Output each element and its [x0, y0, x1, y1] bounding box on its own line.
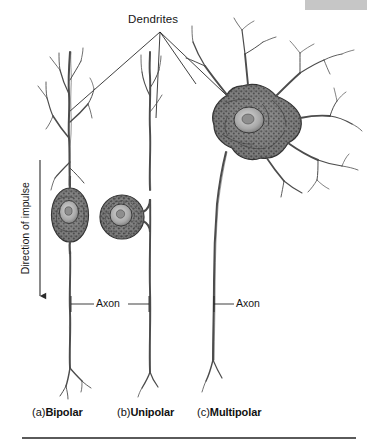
caption-bipolar-prefix: (a)	[32, 406, 45, 418]
dendrites-label: Dendrites	[128, 14, 178, 26]
bipolar-dendrite	[38, 48, 94, 190]
multipolar-soma	[213, 84, 302, 159]
caption-row: (a)Bipolar (b)Unipolar (c)Multipolar	[0, 406, 367, 426]
multipolar-neuron	[186, 18, 362, 392]
caption-unipolar-prefix: (b)	[117, 406, 130, 418]
caption-unipolar: (b)Unipolar	[117, 406, 174, 418]
multipolar-axon	[202, 152, 227, 392]
unipolar-neuron	[100, 52, 162, 397]
bipolar-neuron	[38, 48, 94, 399]
caption-bipolar-name: Bipolar	[45, 406, 82, 418]
caption-unipolar-name: Unipolar	[130, 406, 174, 418]
direction-of-impulse-label: Direction of impulse	[20, 158, 31, 298]
bipolar-soma	[52, 176, 89, 254]
neuron-types-figure: Dendrites Axon Axon Direction of impulse…	[0, 0, 367, 448]
caption-multipolar-prefix: (c)	[197, 406, 210, 418]
unipolar-soma	[100, 195, 150, 239]
unipolar-stalk	[143, 199, 150, 212]
caption-multipolar: (c)Multipolar	[197, 406, 261, 418]
axon-label-left: Axon	[96, 298, 120, 309]
bipolar-axon	[60, 252, 91, 399]
caption-multipolar-name: Multipolar	[210, 406, 262, 418]
caption-bipolar: (a)Bipolar	[32, 406, 83, 418]
axon-label-right: Axon	[236, 298, 260, 309]
unipolar-dendrite	[141, 52, 162, 190]
neuron-diagram-svg	[0, 0, 367, 448]
unipolar-axon	[138, 200, 158, 397]
bottom-divider-rule	[22, 437, 356, 439]
